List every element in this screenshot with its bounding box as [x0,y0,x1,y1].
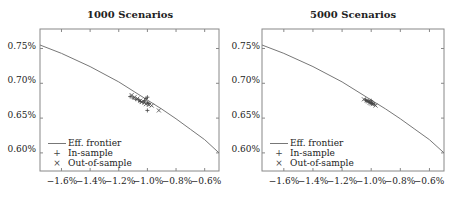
legend: Eff. frontier +In-sample ×Out-of-sample [46,138,132,168]
plus-icon: + [46,148,68,158]
chart-panel-5000: 5000 Scenarios 0.75% 0.70% 0.65% 0.60% −… [222,0,450,197]
y-tick-label: 0.70% [226,75,260,85]
efficient-frontier-line [262,45,444,153]
legend: Eff. frontier +In-sample ×Out-of-sample [268,138,354,168]
y-tick-label: 0.75% [2,41,36,51]
y-tick-label: 0.60% [2,144,36,154]
plus-icon: + [268,148,290,158]
y-tick-label: 0.60% [226,144,260,154]
legend-label: Eff. frontier [68,138,121,148]
cross-icon: × [268,158,290,168]
y-tick-label: 0.65% [2,110,36,120]
legend-label: In-sample [290,148,335,158]
legend-label: Out-of-sample [68,158,132,168]
efficient-frontier-line [40,45,219,153]
x-tick-label: −0.6% [189,176,223,186]
y-tick-label: 0.75% [226,41,260,51]
legend-label: Out-of-sample [290,158,354,168]
cross-icon: × [46,158,68,168]
frontier-line-swatch [270,143,288,144]
x-tick-label: −0.6% [412,176,446,186]
frontier-line-swatch [48,143,66,144]
y-tick-label: 0.70% [2,75,36,85]
out-of-sample-point [150,104,154,108]
legend-label: Eff. frontier [290,138,343,148]
legend-label: In-sample [68,148,113,158]
chart-panel-1000: 1000 Scenarios 0.75% 0.70% 0.65% 0.60% −… [0,0,228,197]
out-of-sample-point [157,108,161,112]
in-sample-point [145,108,149,112]
y-tick-label: 0.65% [226,110,260,120]
